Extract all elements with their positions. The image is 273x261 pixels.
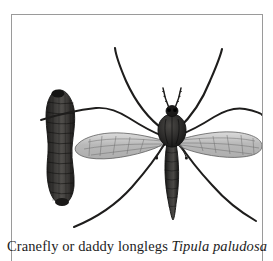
- larva-head-end: [52, 90, 65, 98]
- figure-plate: Cranefly or daddy longlegs Tipula paludo…: [0, 0, 273, 261]
- larva-specimen: [46, 90, 75, 207]
- figure-caption: Cranefly or daddy longlegs Tipula paludo…: [12, 233, 262, 261]
- caption-common-name: Cranefly or daddy longlegs: [7, 238, 172, 254]
- caption-species-name: Tipula paludosa: [172, 238, 267, 254]
- caption-line: Cranefly or daddy longlegs Tipula paludo…: [7, 239, 267, 255]
- illustration-area: [12, 15, 262, 233]
- larva-tail-end: [55, 198, 69, 206]
- cranefly-illustration-svg: [12, 15, 262, 233]
